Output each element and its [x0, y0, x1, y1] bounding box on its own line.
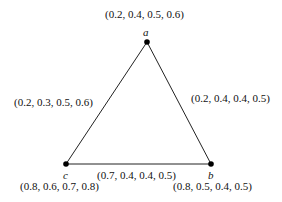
- vertex-a-dot: [144, 39, 150, 45]
- edge-a-c-value: (0.2, 0.3, 0.5, 0.6): [14, 97, 93, 108]
- vertex-b-value: (0.8, 0.5, 0.4, 0.5): [173, 181, 252, 192]
- vertex-a-label: a: [143, 27, 149, 38]
- vertex-c-value: (0.8, 0.6, 0.7, 0.8): [20, 181, 99, 192]
- vertex-c-dot: [63, 161, 69, 167]
- edge-c-b-value: (0.7, 0.4, 0.4, 0.5): [97, 170, 176, 181]
- edge-a-b-value: (0.2, 0.4, 0.4, 0.5): [191, 93, 270, 104]
- vertex-b-dot: [208, 161, 214, 167]
- vertex-a-value: (0.2, 0.4, 0.5, 0.6): [105, 9, 184, 20]
